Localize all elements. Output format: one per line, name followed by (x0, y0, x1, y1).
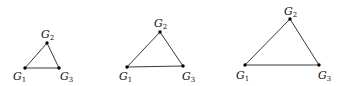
large-triangle: G1G2G3 (236, 5, 331, 83)
vertex-label: G3 (60, 70, 73, 84)
vertex-label: G1 (236, 69, 249, 83)
small-triangle: G1G2G3 (13, 28, 73, 84)
medium-triangle: G1G2G3 (119, 17, 195, 84)
vertex-dot (181, 64, 184, 67)
vertex-label: G1 (13, 70, 26, 84)
vertex-label: G2 (41, 28, 54, 42)
vertex-dot (158, 30, 161, 33)
vertex-label: G2 (154, 17, 167, 31)
vertex-dot (317, 63, 320, 66)
vertex-dot (45, 41, 48, 44)
vertex-dot (243, 63, 246, 66)
vertex-dot (23, 66, 26, 69)
vertex-dot (125, 65, 128, 68)
triangle-edges (245, 19, 319, 65)
triangle-edges (127, 32, 183, 67)
vertex-label: G1 (119, 70, 132, 84)
vertex-label: G3 (182, 70, 195, 84)
triangle-diagrams: G1G2G3G1G2G3G1G2G3 (0, 0, 339, 86)
triangle-edges (25, 43, 59, 68)
vertex-label: G3 (318, 69, 331, 83)
vertex-label: G2 (284, 5, 297, 19)
